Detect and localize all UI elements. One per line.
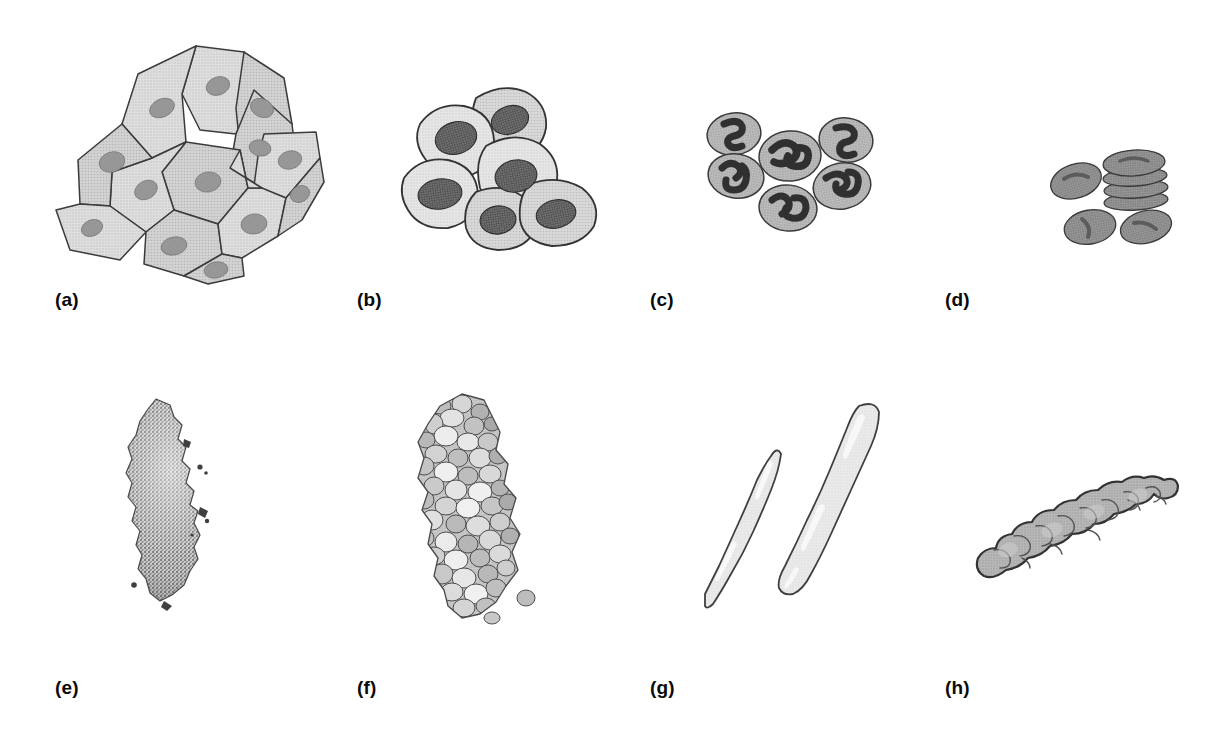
panel-label-a: (a) [55, 290, 79, 309]
panel-f-illustration [400, 392, 560, 622]
panel-d-illustration [1048, 143, 1178, 248]
panel-f [400, 392, 560, 622]
panel-h [968, 470, 1183, 600]
panel-a [48, 38, 328, 288]
panel-label-f: (f) [357, 678, 377, 697]
panel-d [1048, 143, 1178, 248]
panel-h-illustration [968, 470, 1183, 600]
panel-e-illustration [112, 395, 242, 610]
panel-b-illustration [398, 80, 623, 255]
panel-label-b: (b) [357, 290, 382, 309]
panel-label-h: (h) [945, 678, 970, 697]
figure-canvas: (a) [0, 0, 1214, 748]
panel-label-g: (g) [650, 678, 675, 697]
panel-g [705, 398, 885, 623]
panel-c [700, 110, 885, 235]
panel-a-illustration [48, 38, 328, 288]
panel-label-d: (d) [945, 290, 970, 309]
panel-label-c: (c) [650, 290, 674, 309]
panel-b [398, 80, 623, 255]
panel-e [112, 395, 242, 610]
panel-label-e: (e) [55, 678, 79, 697]
panel-c-illustration [700, 110, 885, 235]
panel-g-illustration [705, 398, 885, 623]
